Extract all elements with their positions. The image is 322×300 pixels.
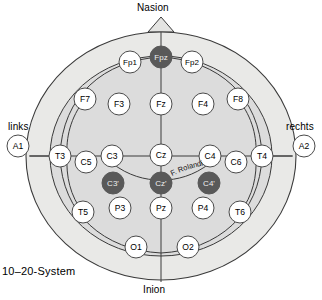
electrode-F3[interactable]: F3 bbox=[108, 93, 130, 115]
electrode-P3[interactable]: P3 bbox=[109, 197, 131, 219]
electrode-Fz[interactable]: Fz bbox=[150, 93, 172, 115]
electrode-T5[interactable]: T5 bbox=[72, 201, 94, 223]
electrode-label: Pz bbox=[156, 203, 166, 213]
right-side-label: rechts bbox=[286, 121, 314, 132]
electrode-label: C4' bbox=[203, 179, 215, 188]
electrode-label: T6 bbox=[235, 207, 245, 217]
electrode-C5[interactable]: C5 bbox=[75, 151, 97, 173]
electrode-label: Cz bbox=[156, 150, 167, 160]
electrode-label: F3 bbox=[114, 99, 124, 109]
electrode-label: T4 bbox=[257, 151, 267, 161]
electrode-T3[interactable]: T3 bbox=[49, 145, 71, 167]
electrode-label: F8 bbox=[233, 94, 243, 104]
electrode-label: O2 bbox=[182, 242, 194, 252]
electrode-C3p[interactable]: C3' bbox=[102, 172, 124, 194]
electrode-Fp2[interactable]: Fp2 bbox=[181, 51, 203, 73]
electrode-label: A2 bbox=[299, 141, 310, 151]
electrode-label: P3 bbox=[115, 203, 126, 213]
electrode-label: C4 bbox=[205, 151, 216, 161]
electrode-label: T3 bbox=[55, 151, 65, 161]
electrode-label: C6 bbox=[231, 157, 242, 167]
electrode-O2[interactable]: O2 bbox=[177, 236, 199, 258]
electrode-C3[interactable]: C3 bbox=[101, 145, 123, 167]
electrode-Fp1[interactable]: Fp1 bbox=[119, 51, 141, 73]
eeg-10-20-diagram: A1A2Fp1FpzFp2F7F3FzF4F8T3C5C3CzC4C6T4C3'… bbox=[0, 0, 322, 300]
electrode-F8[interactable]: F8 bbox=[227, 88, 249, 110]
electrode-T6[interactable]: T6 bbox=[229, 201, 251, 223]
electrode-label: Cz' bbox=[155, 179, 167, 188]
electrode-label: F7 bbox=[80, 94, 90, 104]
electrode-P4[interactable]: P4 bbox=[192, 197, 214, 219]
electrode-A2[interactable]: A2 bbox=[293, 135, 315, 157]
electrode-C4p[interactable]: C4' bbox=[198, 172, 220, 194]
electrode-C6[interactable]: C6 bbox=[225, 151, 247, 173]
electrode-label: P4 bbox=[198, 203, 209, 213]
electrode-label: C5 bbox=[81, 157, 92, 167]
electrode-label: Fpz bbox=[154, 53, 167, 62]
electrode-label: Fp2 bbox=[185, 58, 199, 67]
electrode-label: O1 bbox=[130, 242, 142, 252]
electrode-T4[interactable]: T4 bbox=[251, 145, 273, 167]
electrode-F7[interactable]: F7 bbox=[74, 88, 96, 110]
electrode-Fpz[interactable]: Fpz bbox=[150, 46, 172, 68]
electrode-label: C3' bbox=[107, 179, 119, 188]
nose-shape bbox=[148, 17, 174, 32]
electrode-label: C3 bbox=[107, 151, 118, 161]
electrode-label: Fz bbox=[156, 99, 166, 109]
electrode-Pz[interactable]: Pz bbox=[150, 197, 172, 219]
electrode-label: A1 bbox=[13, 141, 24, 151]
electrode-Czp[interactable]: Cz' bbox=[150, 172, 172, 194]
nasion-label: Nasion bbox=[137, 2, 169, 13]
electrode-F4[interactable]: F4 bbox=[192, 93, 214, 115]
electrode-A1[interactable]: A1 bbox=[7, 135, 29, 157]
figure-caption: 10–20-System bbox=[2, 266, 75, 277]
electrode-Cz[interactable]: Cz bbox=[150, 144, 172, 166]
electrode-label: Fp1 bbox=[123, 58, 137, 67]
electrode-O1[interactable]: O1 bbox=[125, 236, 147, 258]
electrode-label: F4 bbox=[198, 99, 208, 109]
inion-label: Inion bbox=[143, 284, 165, 295]
electrode-label: T5 bbox=[78, 207, 88, 217]
left-side-label: links bbox=[8, 121, 29, 132]
